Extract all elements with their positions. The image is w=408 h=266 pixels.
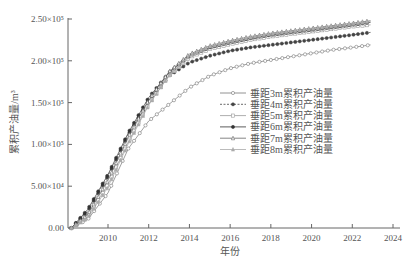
x-tick-label: 2018 [262, 233, 281, 243]
x-tick-label: 2012 [140, 233, 158, 243]
y-axis-label: 累积产油量/m³ [8, 90, 20, 154]
legend-item: 垂距4m累积产油量 [220, 98, 333, 110]
y-tick-label: 5.00×10⁴ [31, 181, 64, 191]
legend-label: 垂距4m累积产油量 [250, 98, 333, 110]
legend-label: 垂距5m累积产油量 [250, 109, 333, 121]
x-tick-label: 2016 [221, 233, 240, 243]
y-tick-label: 1.00×10⁵ [31, 139, 64, 149]
legend-item: 垂距3m累积产油量 [220, 87, 333, 99]
legend-item: 垂距8m累积产油量 [220, 143, 333, 155]
x-axis-label: 年份 [220, 245, 240, 257]
legend: 垂距3m累积产油量垂距4m累积产油量垂距5m累积产油量垂距6m累积产油量垂距7m… [220, 87, 333, 156]
x-tick-label: 2020 [303, 233, 322, 243]
legend-item: 垂距7m累积产油量 [220, 132, 333, 144]
x-tick-label: 2014 [180, 233, 199, 243]
legend-item: 垂距5m累积产油量 [220, 109, 333, 121]
legend-label: 垂距8m累积产油量 [250, 143, 333, 155]
y-tick-label: 2.00×10⁵ [31, 56, 64, 66]
legend-label: 垂距3m累积产油量 [250, 87, 333, 99]
y-tick-label: 0.00 [48, 223, 64, 233]
legend-label: 垂距7m累积产油量 [250, 132, 333, 144]
y-tick-label: 1.50×10⁵ [31, 98, 64, 108]
legend-item: 垂距6m累积产油量 [220, 120, 333, 132]
x-tick-label: 2024 [384, 233, 403, 243]
cumulative-oil-production-chart: 0.005.00×10⁴1.00×10⁵1.50×10⁵2.00×10⁵2.50… [0, 0, 408, 266]
x-tick-label: 2022 [343, 233, 361, 243]
legend-label: 垂距6m累积产油量 [250, 120, 333, 132]
x-tick-label: 2010 [99, 233, 118, 243]
y-tick-label: 2.50×10⁵ [31, 14, 64, 24]
